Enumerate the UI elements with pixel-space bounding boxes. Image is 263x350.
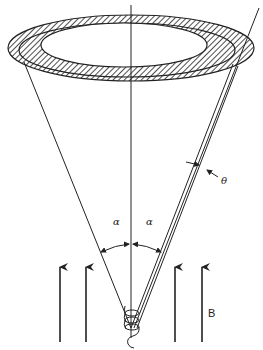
- cone-boundary-right: [131, 64, 233, 328]
- cone-boundary-left: [24, 62, 131, 328]
- alpha-label-left: α: [113, 216, 120, 227]
- diagram-canvas: α α θ B: [0, 0, 263, 350]
- field-label: B: [208, 307, 215, 319]
- ring-inner-boundary: [41, 23, 207, 67]
- theta-label: θ: [221, 175, 227, 186]
- alpha-label-right: α: [146, 216, 153, 227]
- theta-angle-marker: [186, 162, 218, 177]
